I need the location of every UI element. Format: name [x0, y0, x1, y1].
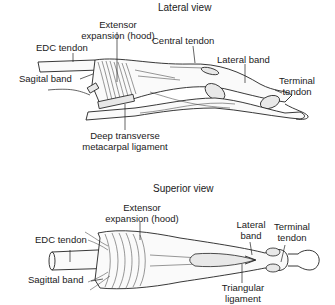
superior-dip-joint-bottom — [266, 264, 280, 272]
label-line: band — [233, 231, 269, 242]
label-lateral-sagittal-band: Sagital band — [19, 74, 72, 85]
label-line: Extensor — [78, 20, 158, 31]
label-superior-lateral-band: Lateral band — [233, 220, 269, 241]
label-lateral-central-tendon: Central tendon — [152, 36, 214, 47]
label-line: tendon — [270, 233, 314, 244]
label-superior-triangular-ligament: Triangular ligament — [218, 283, 268, 304]
label-lateral-deep-transverse: Deep transverse metacarpal ligament — [80, 131, 170, 152]
lateral-edc-tendon — [38, 60, 100, 72]
label-line: Terminal — [275, 76, 319, 87]
leader-lateral-sagittal — [80, 74, 93, 79]
label-lateral-band: Lateral band — [217, 55, 270, 66]
superior-dip-joint-top — [266, 248, 280, 256]
label-line: tendon — [275, 87, 319, 98]
label-line: Deep transverse — [80, 131, 170, 142]
leader-lateral-central — [193, 46, 195, 63]
label-line: expansion (hood) — [78, 31, 158, 42]
label-superior-edc-tendon: EDC tendon — [35, 235, 87, 246]
label-line: ligament — [218, 294, 268, 305]
label-line: Triangular — [218, 283, 268, 294]
superior-fingertip — [288, 250, 319, 270]
label-lateral-terminal-tendon: Terminal tendon — [275, 76, 319, 97]
label-lateral-extensor-expansion: Extensor expansion (hood) — [78, 20, 158, 41]
label-line: Extensor — [102, 203, 182, 214]
label-line: Lateral — [233, 220, 269, 231]
label-line: metacarpal ligament — [80, 142, 170, 153]
label-lateral-edc-tendon: EDC tendon — [36, 43, 88, 54]
label-superior-extensor-expansion: Extensor expansion (hood) — [102, 203, 182, 224]
superior-edc-tendon-end — [49, 252, 55, 270]
label-line: Terminal — [270, 222, 314, 233]
label-line: expansion (hood) — [102, 214, 182, 225]
label-superior-sagittal-band: Sagittal band — [28, 275, 83, 286]
superior-view-title: Superior view — [153, 184, 214, 195]
lateral-view-title: Lateral view — [158, 3, 211, 14]
label-superior-terminal-tendon: Terminal tendon — [270, 222, 314, 243]
